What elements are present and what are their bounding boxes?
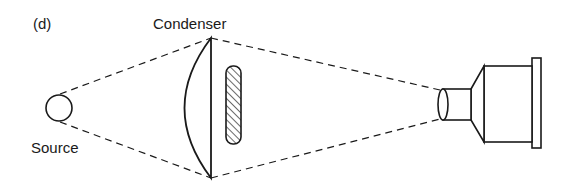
source-label: Source bbox=[31, 139, 79, 156]
ray-condenser-top bbox=[211, 38, 440, 90]
panel-label: (d) bbox=[33, 15, 51, 32]
condenser-label: Condenser bbox=[153, 15, 226, 32]
condenser-lens-icon bbox=[185, 38, 212, 178]
light-source-icon bbox=[46, 95, 72, 121]
optical-projection-diagram: (d) Condenser Source bbox=[0, 0, 561, 196]
light-rays bbox=[60, 38, 440, 178]
diagram-svg: (d) Condenser Source bbox=[0, 0, 561, 196]
ray-condenser-bottom bbox=[211, 119, 440, 178]
slide-icon bbox=[226, 66, 241, 144]
projection-lens-icon bbox=[438, 58, 541, 148]
